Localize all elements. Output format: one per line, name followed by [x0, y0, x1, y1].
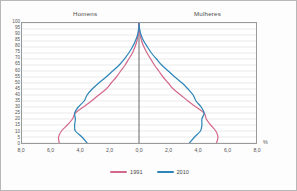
x-axis-tick: 4,0 [194, 147, 201, 153]
y-axis-tick: 40 [15, 93, 20, 98]
x-axis-unit-label: % [263, 139, 268, 145]
y-axis-tick: 45 [15, 87, 20, 92]
x-axis-tick: 6,0 [224, 147, 231, 153]
y-axis-tick: 60 [15, 69, 20, 74]
legend-color-swatch [110, 171, 127, 173]
y-axis-tick: 20 [15, 117, 20, 122]
y-axis-tick: 10 [15, 130, 20, 135]
chart-legend: 19912010 [1, 169, 297, 175]
legend-item-2010[interactable]: 2010 [157, 169, 189, 175]
x-axis-tick: 2,0 [106, 147, 113, 153]
y-axis-tick: 65 [15, 62, 20, 67]
y-axis-tick: 95 [15, 26, 20, 31]
legend-color-swatch [157, 171, 174, 173]
series-line-1991-right [139, 23, 218, 143]
chart-side-label-women: Mulheres [194, 10, 221, 17]
legend-label: 1991 [130, 169, 142, 175]
y-axis-tick: 50 [15, 81, 20, 86]
series-curves [22, 23, 256, 143]
y-axis-tick: 35 [15, 99, 20, 104]
y-axis-tick: 90 [15, 32, 20, 37]
legend-label: 2010 [177, 169, 189, 175]
x-axis-tick: 0,0 [135, 147, 142, 153]
y-axis-tick-labels: 1009590858075706560555045403530252015105… [1, 20, 20, 146]
chart-frame: Homens Mulheres 100959085807570656055504… [0, 0, 297, 191]
y-axis-tick: 70 [15, 56, 20, 61]
x-axis-tick: 8,0 [253, 147, 260, 153]
y-axis-tick: 30 [15, 105, 20, 110]
plot-area [21, 22, 257, 144]
x-axis-tick: 8,0 [17, 147, 24, 153]
legend-item-1991[interactable]: 1991 [110, 169, 142, 175]
y-axis-tick: 55 [15, 75, 20, 80]
x-axis-tick-labels: 8,06,04,02,00,02,04,06,08,0 [21, 147, 257, 157]
y-axis-tick: 100 [12, 20, 20, 25]
y-axis-tick: 15 [15, 123, 20, 128]
y-axis-tick: 80 [15, 44, 20, 49]
y-axis-tick: 0 [17, 142, 20, 147]
y-axis-tick: 25 [15, 111, 20, 116]
x-axis-tick: 4,0 [76, 147, 83, 153]
x-axis-tick: 2,0 [165, 147, 172, 153]
y-axis-tick: 75 [15, 50, 20, 55]
x-axis-tick: 6,0 [47, 147, 54, 153]
y-axis-tick: 5 [17, 136, 20, 141]
chart-side-label-men: Homens [73, 10, 97, 17]
series-line-2010-right [139, 23, 204, 143]
series-line-2010-left [75, 23, 139, 143]
y-axis-tick: 85 [15, 38, 20, 43]
